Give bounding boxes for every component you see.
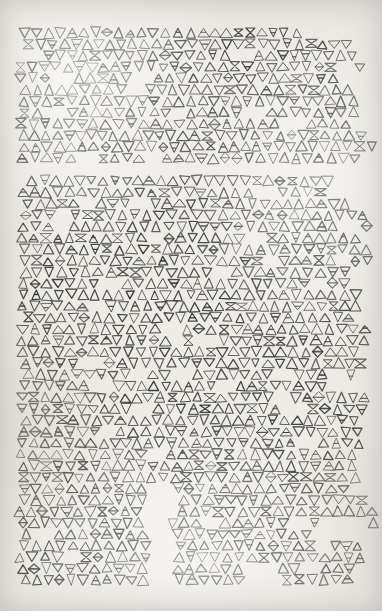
glyph-row (19, 517, 379, 529)
glyph-row (20, 380, 326, 392)
glyph-row (18, 187, 326, 199)
glyph-row (17, 346, 358, 357)
glyph-row (19, 27, 301, 39)
glyph-row (19, 426, 362, 438)
glyph-row (27, 175, 333, 187)
glyph-row (19, 494, 367, 506)
glyph-row (21, 414, 358, 426)
glyph-row (19, 471, 360, 483)
glyph-row (20, 210, 366, 221)
glyph-row (22, 529, 311, 540)
glyph-row (14, 505, 378, 517)
glyph-row (20, 107, 358, 118)
glyph-row (17, 152, 360, 164)
glyph-row (23, 38, 351, 50)
glyph-row (18, 220, 372, 232)
glyph-row (18, 563, 355, 575)
glyph-row (20, 141, 377, 153)
glyph-field (0, 0, 382, 611)
glyph-row (20, 540, 362, 552)
glyph-row (23, 369, 355, 381)
glyph-row (44, 50, 356, 62)
glyph-row (20, 289, 362, 301)
glyph-row (20, 244, 372, 256)
glyph-row (19, 129, 366, 141)
glyph-row (15, 551, 364, 562)
glyph-row (21, 357, 367, 369)
glyph-row (19, 483, 349, 495)
glyph-row (24, 312, 354, 324)
glyph-row (20, 84, 353, 95)
glyph-row (17, 232, 361, 244)
glyph-row (17, 334, 369, 346)
glyph-row (17, 323, 371, 335)
glyph-row (23, 198, 349, 209)
glyph-row (19, 277, 350, 289)
glyph-row (16, 118, 351, 130)
glyph-row (17, 403, 367, 415)
glyph-row (19, 95, 358, 107)
glyph-row (18, 300, 361, 312)
glyph-row (20, 255, 373, 267)
glyph-row (16, 449, 355, 461)
glyph-row (16, 61, 364, 73)
glyph-row (18, 437, 363, 449)
glyph-row (15, 72, 338, 83)
glyph-row (19, 460, 356, 472)
glyph-row (22, 574, 354, 586)
glyph-row (20, 266, 350, 278)
scanned-page: Asemic triangle glyph page Dense page of… (0, 0, 382, 611)
glyph-row (17, 391, 369, 403)
